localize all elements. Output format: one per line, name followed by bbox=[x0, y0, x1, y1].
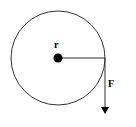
radius-label: r bbox=[54, 40, 58, 50]
diagram-graphic bbox=[0, 0, 136, 127]
force-label: F bbox=[108, 79, 114, 89]
axle-hub bbox=[54, 54, 63, 63]
rotating-disk-diagram: r F bbox=[0, 0, 136, 127]
force-arrowhead-icon bbox=[101, 107, 109, 114]
